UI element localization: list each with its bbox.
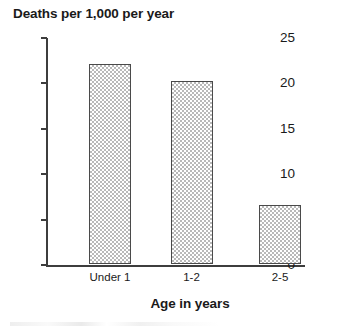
y-tick-5 [41, 219, 47, 221]
plot-area: 0510152025 [47, 38, 305, 265]
y-tick-25 [41, 37, 47, 39]
x-tick-label: 1-2 [183, 272, 200, 284]
bar [259, 205, 301, 264]
y-tick-20 [41, 82, 47, 84]
y-tick-10 [41, 173, 47, 175]
y-axis-line [46, 38, 48, 266]
scan-artifact [10, 322, 220, 326]
bar [89, 64, 131, 264]
x-tick-label: 2-5 [272, 272, 289, 284]
x-axis-line [46, 265, 305, 267]
x-tick-label: Under 1 [90, 272, 131, 284]
y-tick-label: 10 [280, 167, 295, 181]
y-tick-label: 15 [280, 122, 295, 136]
bar [171, 81, 213, 264]
y-tick-15 [41, 128, 47, 130]
y-tick-label: 25 [280, 31, 295, 45]
y-tick-0 [41, 264, 47, 266]
chart-title: Deaths per 1,000 per year [13, 6, 174, 21]
x-axis-title: Age in years [150, 296, 229, 311]
y-tick-label: 20 [280, 77, 295, 91]
bar-chart-figure: Deaths per 1,000 per year 0510152025 Und… [0, 0, 353, 330]
